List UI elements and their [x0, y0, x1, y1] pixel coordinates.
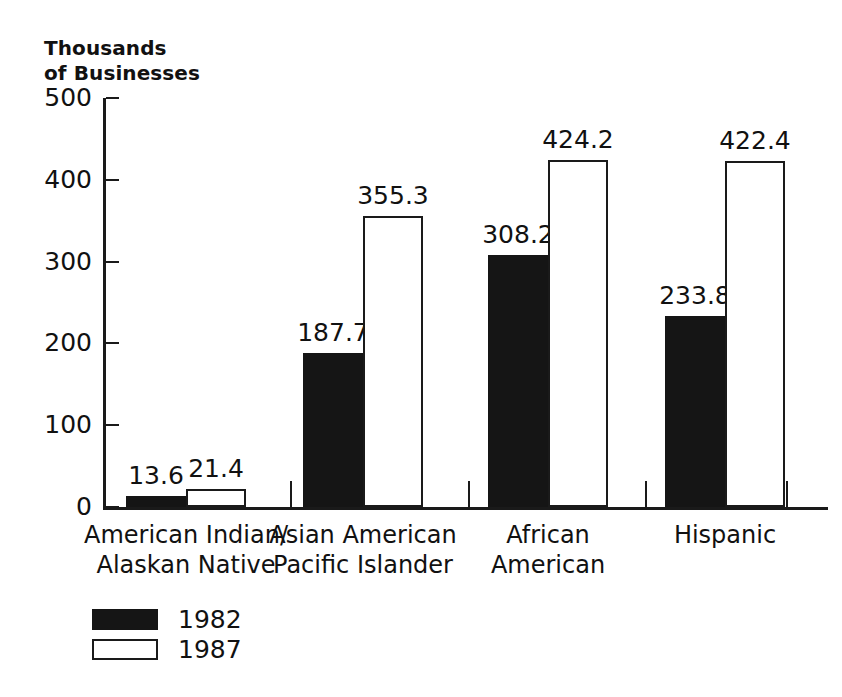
y-axis-tick-label-text: 100 [14, 412, 92, 437]
bar-1982-1[interactable] [126, 496, 186, 507]
x-axis-tick [468, 481, 470, 508]
x-axis-tick [290, 481, 292, 508]
bar-1987-3[interactable] [548, 160, 608, 507]
bar-value-label: 422.4 [705, 128, 805, 153]
x-axis-category-label: Hispanic [605, 520, 842, 550]
legend-swatch-icon [92, 609, 158, 630]
bar-1982-2[interactable] [303, 353, 363, 507]
y-axis-tick [106, 179, 119, 181]
y-axis-line [103, 98, 106, 510]
bar-value-label: 424.2 [528, 127, 628, 152]
bar-chart: Thousands of Businesses 0100200300400500… [0, 0, 842, 697]
bar-1987-1[interactable] [186, 489, 246, 507]
bar-1987-2[interactable] [363, 216, 423, 507]
bar-1982-3[interactable] [488, 255, 548, 507]
bar-value-label: 355.3 [343, 183, 443, 208]
legend-label: 1982 [178, 605, 242, 634]
y-axis-tick [106, 97, 119, 99]
y-axis-tick-label-text: 200 [14, 330, 92, 355]
bar-1982-4[interactable] [665, 316, 725, 507]
bar-value-label: 21.4 [166, 456, 266, 481]
y-axis-tick [106, 506, 119, 508]
chart-axis-title: Thousands of Businesses [44, 36, 200, 86]
y-axis-tick [106, 342, 119, 344]
x-axis-tick [786, 481, 788, 508]
legend-swatch-icon [92, 639, 158, 660]
x-axis-line [103, 507, 828, 510]
y-axis-tick-label-text: 0 [14, 494, 92, 519]
y-axis-tick [106, 261, 119, 263]
y-axis-tick-label-text: 500 [14, 85, 92, 110]
y-axis-tick-label-text: 300 [14, 249, 92, 274]
x-axis-tick [645, 481, 647, 508]
bar-1987-4[interactable] [725, 161, 785, 507]
y-axis-tick [106, 424, 119, 426]
legend-label: 1987 [178, 635, 242, 664]
y-axis-tick-label-text: 400 [14, 167, 92, 192]
